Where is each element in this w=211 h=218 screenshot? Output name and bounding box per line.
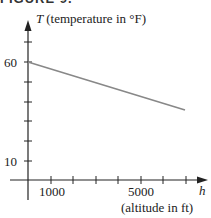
x-axis-var-label: h [199,183,206,198]
temperature-line [28,62,185,110]
x-axis-desc-label: (altitude in ft) [121,200,193,215]
x-tick-label-5000: 5000 [128,184,154,199]
x-tick-label-1000: 1000 [39,184,65,199]
chart: T(temperature in °F) 60 10 1000 5000 h (… [0,0,211,218]
y-tick-label-10: 10 [4,154,17,169]
y-axis-label: T(temperature in °F) [36,11,146,26]
y-axis-arrow-icon [25,20,32,31]
y-tick-label-60: 60 [4,55,17,70]
